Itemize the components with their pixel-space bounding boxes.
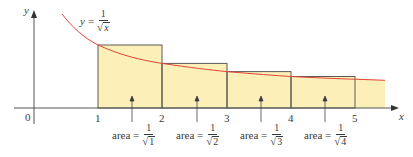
area-label-2: area = 1√2 xyxy=(176,123,219,147)
function-label: y = 1 √x xyxy=(80,9,110,33)
x-tick-2: 2 xyxy=(159,112,165,124)
x-axis-label: x xyxy=(399,110,404,122)
x-tick-3: 3 xyxy=(224,112,230,124)
x-tick-4: 4 xyxy=(288,112,294,124)
area-label-3: area = 1√3 xyxy=(240,123,283,147)
x-tick-1: 1 xyxy=(95,112,101,124)
area-label-4: area = 1√4 xyxy=(304,123,347,147)
origin-label: 0 xyxy=(25,111,31,123)
area-label-1: area = 1√1 xyxy=(112,123,155,147)
x-tick-5: 5 xyxy=(352,112,358,124)
y-axis-arrow-icon xyxy=(31,10,37,18)
y-axis-label: y xyxy=(24,4,29,16)
x-axis-arrow-icon xyxy=(391,105,399,111)
